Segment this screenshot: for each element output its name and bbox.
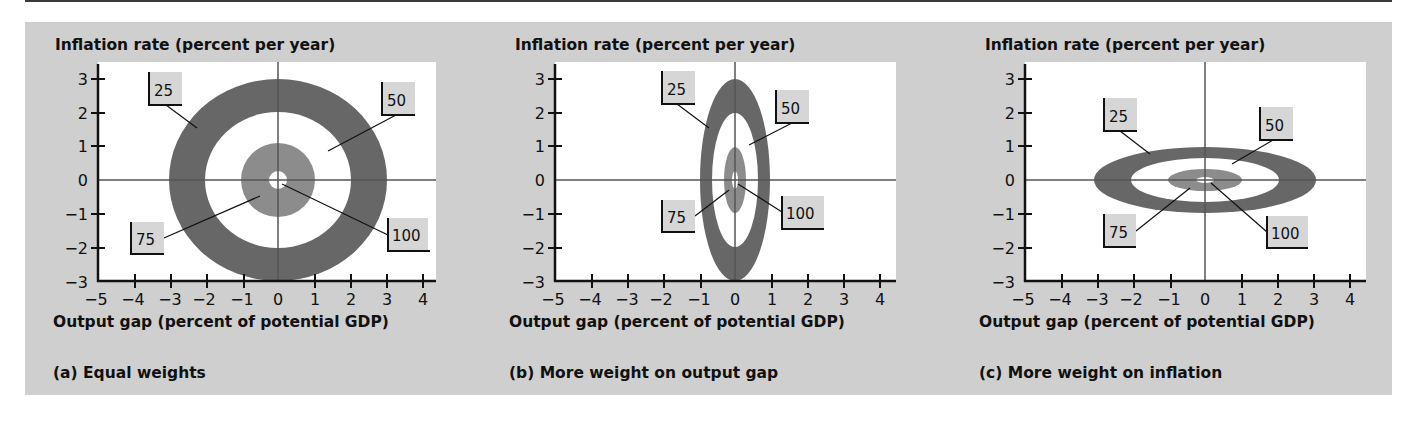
callout-label: 50 (387, 92, 406, 110)
y-tick-label: 3 (1005, 70, 1015, 89)
y-axis-title: Inflation rate (percent per year) (985, 36, 1265, 54)
x-tick-label: −2 (649, 290, 673, 309)
x-tick-label: −4 (578, 290, 602, 309)
y-axis-title: Inflation rate (percent per year) (55, 36, 335, 54)
x-tick-labels: −5 −4 −3 −2 −1 0 1 2 3 4 (1011, 290, 1355, 309)
x-tick-label: 3 (382, 290, 392, 309)
x-tick-label: 2 (346, 290, 356, 309)
panel-a: Inflation rate (percent per year) 3 2 (53, 36, 436, 382)
callout-label: 75 (136, 231, 155, 249)
x-tick-label: 0 (730, 290, 740, 309)
x-tick-label: 2 (1273, 290, 1283, 309)
y-tick-label: 2 (1005, 104, 1015, 123)
x-tick-labels: −5 −4 −3 −2 −1 0 1 2 3 4 (541, 290, 885, 309)
y-tick-label: 1 (1005, 137, 1015, 156)
x-tick-label: 3 (1309, 290, 1319, 309)
x-tick-label: 4 (875, 290, 885, 309)
callout-label: 100 (392, 227, 421, 245)
y-tick-label: 0 (535, 171, 545, 190)
y-tick-label: −2 (521, 239, 545, 258)
panel-c: Inflation rate (percent per year) 3 2 1 (979, 36, 1366, 382)
x-tick-label: −2 (192, 290, 216, 309)
y-axis-title: Inflation rate (percent per year) (515, 36, 795, 54)
callout-label: 75 (667, 209, 686, 227)
x-tick-label: −4 (121, 290, 145, 309)
panel-caption: (a) Equal weights (53, 364, 206, 382)
y-tick-label: 1 (535, 137, 545, 156)
x-tick-label: 1 (310, 290, 320, 309)
y-tick-label: 2 (78, 104, 88, 123)
y-tick-label: 1 (78, 137, 88, 156)
y-tick-label: 0 (1005, 171, 1015, 190)
callout-label: 100 (1271, 225, 1300, 243)
x-tick-label: 3 (839, 290, 849, 309)
x-tick-label: −1 (687, 290, 711, 309)
panel-caption: (b) More weight on output gap (509, 364, 778, 382)
callout-label: 25 (1109, 108, 1128, 126)
x-tick-label: 0 (273, 290, 283, 309)
y-tick-label: −1 (521, 205, 545, 224)
callout-label: 75 (1109, 224, 1128, 242)
callout-label: 50 (781, 100, 800, 118)
figure: Inflation rate (percent per year) 3 2 (0, 0, 1412, 421)
x-axis-title: Output gap (percent of potential GDP) (979, 313, 1315, 331)
callout-label: 25 (667, 81, 686, 99)
x-tick-label: −1 (230, 290, 254, 309)
y-tick-label: 3 (78, 70, 88, 89)
y-tick-labels: 3 2 1 0 −1 −2 −3 (64, 70, 88, 292)
x-tick-label: −5 (541, 290, 565, 309)
x-tick-label: 4 (1345, 290, 1355, 309)
panel-b: Inflation rate (percent per year) 3 2 1 (509, 36, 896, 382)
x-tick-label: 1 (1237, 290, 1247, 309)
panel-caption: (c) More weight on inflation (979, 364, 1222, 382)
x-tick-label: −3 (158, 290, 182, 309)
x-axis-title: Output gap (percent of potential GDP) (509, 313, 845, 331)
x-tick-label: 2 (803, 290, 813, 309)
y-tick-label: −2 (991, 239, 1015, 258)
y-tick-label: −1 (64, 205, 88, 224)
x-tick-label: −3 (615, 290, 639, 309)
callout-label: 50 (1265, 117, 1284, 135)
y-tick-label: 3 (535, 70, 545, 89)
x-tick-label: −1 (1157, 290, 1181, 309)
x-tick-labels: −5 −4 −3 −2 −1 0 1 2 3 4 (84, 290, 428, 309)
x-tick-label: 0 (1200, 290, 1210, 309)
callout-label: 25 (154, 82, 173, 100)
y-tick-labels: 3 2 1 0 −1 −2 −3 (521, 70, 545, 292)
y-tick-label: 2 (535, 104, 545, 123)
y-tick-label: −2 (64, 239, 88, 258)
x-tick-label: −2 (1119, 290, 1143, 309)
x-tick-label: −3 (1085, 290, 1109, 309)
x-tick-label: 1 (767, 290, 777, 309)
x-axis-title: Output gap (percent of potential GDP) (53, 313, 389, 331)
x-tick-label: −5 (1011, 290, 1035, 309)
x-tick-label: −4 (1048, 290, 1072, 309)
y-tick-labels: 3 2 1 0 −1 −2 −3 (991, 70, 1015, 292)
callout-label: 100 (786, 205, 815, 223)
y-tick-label: −1 (991, 205, 1015, 224)
x-tick-label: −5 (84, 290, 108, 309)
y-tick-label: 0 (78, 171, 88, 190)
x-tick-label: 4 (418, 290, 428, 309)
